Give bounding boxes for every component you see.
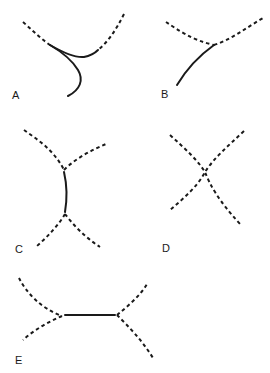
panel-e (19, 278, 153, 358)
panel-d (170, 131, 244, 224)
panel-a (23, 14, 124, 96)
panel-a-left-dashed-arc (23, 22, 50, 45)
panel-a-right-dashed-arc (98, 14, 124, 50)
panel-b-label: B (161, 89, 168, 100)
panel-c-solid-vertical (64, 172, 66, 212)
panel-c-lower-left-dashed (37, 214, 65, 246)
panel-b-right-dashed-arc (214, 18, 263, 45)
panel-c (24, 130, 106, 247)
panel-c-upper-left-dashed (24, 130, 64, 170)
panel-d-dashed-curve-1 (170, 135, 240, 224)
panel-c-upper-right-dashed (64, 144, 106, 170)
panel-b-left-dashed-arc (166, 22, 214, 45)
panel-a-solid-upper-arc (50, 45, 98, 57)
panel-e-lower-right-dashed (117, 315, 153, 358)
panel-c-lower-right-dashed (65, 214, 100, 247)
panel-a-label: A (12, 90, 19, 101)
panel-e-upper-right-dashed (117, 284, 147, 315)
panel-d-label: D (162, 243, 170, 254)
panel-b-solid-descending-line (177, 45, 214, 85)
panel-c-label: C (15, 244, 23, 255)
panel-e-label: E (15, 355, 22, 366)
panel-d-dashed-curve-2 (170, 131, 244, 210)
panel-e-upper-left-dashed (19, 278, 62, 316)
diagram-canvas: A B C D E (0, 0, 270, 373)
diagram-figure (0, 0, 270, 373)
panel-e-lower-left-dashed (23, 316, 62, 340)
panel-b (166, 18, 263, 85)
